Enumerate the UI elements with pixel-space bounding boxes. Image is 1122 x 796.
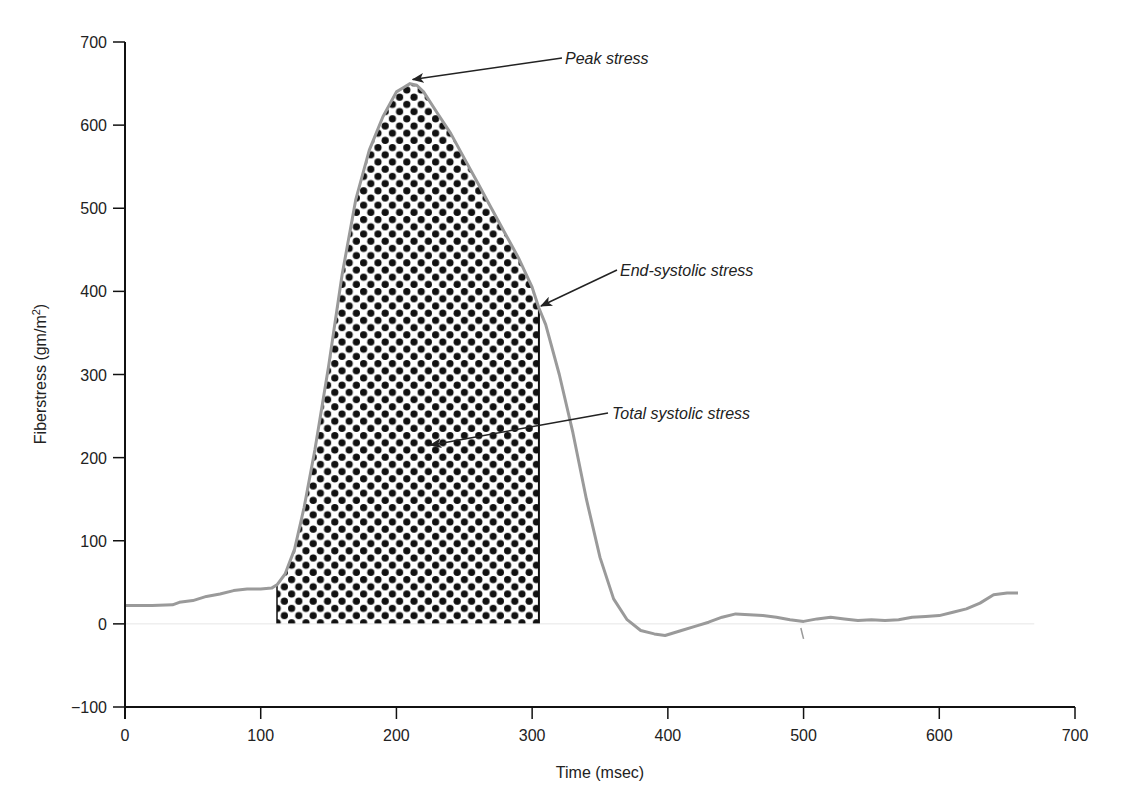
x-tick: 600	[926, 707, 953, 744]
y-tick-label: 200	[80, 450, 107, 467]
x-tick: 300	[519, 707, 546, 744]
end-systolic-stress-annotation: End-systolic stress	[541, 262, 753, 306]
y-tick: 0	[98, 616, 125, 633]
x-tick-label: 700	[1062, 727, 1089, 744]
y-tick: 700	[80, 34, 125, 51]
x-tick-label: 100	[247, 727, 274, 744]
y-tick: 200	[80, 450, 125, 467]
y-tick-label: 600	[80, 117, 107, 134]
x-tick: 400	[655, 707, 682, 744]
x-tick-label: 500	[790, 727, 817, 744]
x-tick: 700	[1062, 707, 1089, 744]
end-systolic-stress-label: End-systolic stress	[620, 262, 753, 279]
x-tick: 500	[790, 707, 817, 744]
y-tick: 400	[80, 283, 125, 300]
x-tick-label: 400	[655, 727, 682, 744]
x-axis-title: Time (msec)	[556, 764, 644, 781]
y-axis-ticks: −1000100200300400500600700	[71, 34, 125, 716]
x-tick-label: 600	[926, 727, 953, 744]
y-tick-label: 300	[80, 367, 107, 384]
y-tick-label: 100	[80, 533, 107, 550]
y-tick: 500	[80, 200, 125, 217]
y-tick: −100	[71, 699, 125, 716]
arrow-icon	[413, 58, 562, 80]
x-tick-label: 300	[519, 727, 546, 744]
fiberstress-chart: 0100200300400500600700 −1000100200300400…	[0, 0, 1122, 796]
peak-stress-label: Peak stress	[565, 50, 649, 67]
y-tick: 600	[80, 117, 125, 134]
y-tick: 300	[80, 367, 125, 384]
x-tick: 200	[383, 707, 410, 744]
fiberstress-curve	[125, 84, 1018, 639]
y-tick-label: −100	[71, 699, 107, 716]
x-axis-ticks: 0100200300400500600700	[121, 707, 1089, 744]
y-tick-label: 500	[80, 200, 107, 217]
x-tick-label: 0	[121, 727, 130, 744]
y-axis-title: Fiberstress (gm/m2)	[30, 304, 49, 444]
y-tick-label: 700	[80, 34, 107, 51]
total-systolic-stress-area	[277, 84, 539, 624]
arrow-icon	[541, 270, 617, 306]
total-systolic-stress-label: Total systolic stress	[612, 405, 750, 422]
peak-stress-annotation: Peak stress	[413, 50, 649, 80]
y-tick-label: 0	[98, 616, 107, 633]
x-tick: 100	[247, 707, 274, 744]
x-tick: 0	[121, 727, 130, 744]
y-tick-label: 400	[80, 283, 107, 300]
x-tick-label: 200	[383, 727, 410, 744]
y-tick: 100	[80, 533, 125, 550]
